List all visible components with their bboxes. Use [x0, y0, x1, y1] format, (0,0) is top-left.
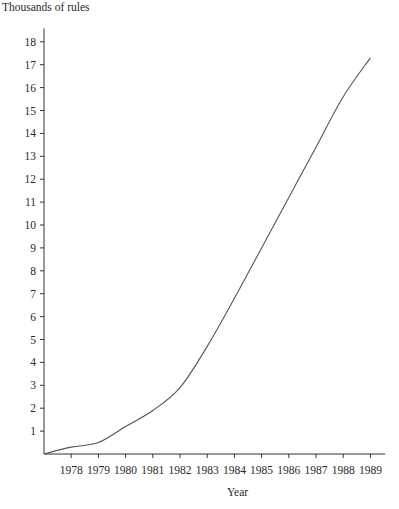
y-tick-label: 14: [25, 127, 37, 139]
y-axis: 123456789101112131415161718: [25, 28, 45, 454]
x-tick-label: 1979: [87, 464, 110, 476]
y-tick-label: 5: [30, 334, 36, 346]
y-tick-label: 15: [25, 105, 37, 117]
y-tick-label: 7: [30, 288, 36, 300]
y-tick-label: 12: [25, 173, 37, 185]
x-tick-label: 1988: [332, 464, 355, 476]
y-tick-label: 17: [25, 59, 37, 71]
x-axis-title: Year: [38, 486, 399, 498]
x-axis: 1978197919801981198219831984198519861987…: [44, 454, 385, 476]
y-tick-label: 3: [30, 379, 36, 391]
x-tick-label: 1984: [223, 464, 246, 476]
series-line-rules: [44, 58, 370, 454]
y-tick-label: 1: [30, 425, 36, 437]
y-tick-label: 13: [25, 150, 37, 162]
x-tick-label: 1981: [141, 464, 164, 476]
y-tick-label: 6: [30, 311, 36, 323]
x-tick-label: 1989: [359, 464, 382, 476]
y-tick-label: 10: [25, 219, 37, 231]
y-tick-label: 9: [30, 242, 36, 254]
y-tick-label: 18: [25, 36, 37, 48]
line-chart: 123456789101112131415161718 197819791980…: [0, 0, 399, 509]
y-tick-label: 11: [25, 196, 36, 208]
x-tick-label: 1978: [60, 464, 83, 476]
x-tick-label: 1987: [305, 464, 328, 476]
x-tick-label: 1983: [196, 464, 219, 476]
y-tick-label: 8: [30, 265, 36, 277]
x-tick-label: 1986: [277, 464, 300, 476]
x-tick-label: 1985: [250, 464, 273, 476]
x-tick-label: 1980: [114, 464, 137, 476]
y-tick-label: 2: [30, 402, 36, 414]
y-tick-label: 4: [30, 356, 36, 368]
x-tick-label: 1982: [169, 464, 192, 476]
y-tick-label: 16: [25, 82, 37, 94]
